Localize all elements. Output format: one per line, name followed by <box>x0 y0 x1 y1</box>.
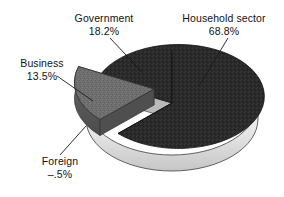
slice-label-foreign-name: Foreign <box>42 155 78 167</box>
slice-label-household: Household sector 68.8% <box>168 12 280 37</box>
leader-line-foreign <box>60 126 86 155</box>
slice-label-household-value: 68.8% <box>168 25 280 38</box>
slice-label-business-value: 13.5% <box>2 70 82 83</box>
slice-label-government: Government 18.2% <box>58 12 150 37</box>
slice-label-household-name: Household sector <box>182 12 265 24</box>
slice-label-government-name: Government <box>75 12 134 24</box>
slice-label-government-value: 18.2% <box>58 25 150 38</box>
pie-chart: Government 18.2% Household sector 68.8% … <box>0 0 284 197</box>
slice-label-foreign: Foreign –.5% <box>24 155 96 180</box>
slice-label-foreign-value: –.5% <box>24 168 96 181</box>
slice-label-business-name: Business <box>20 57 63 69</box>
slice-label-business: Business 13.5% <box>2 57 82 82</box>
